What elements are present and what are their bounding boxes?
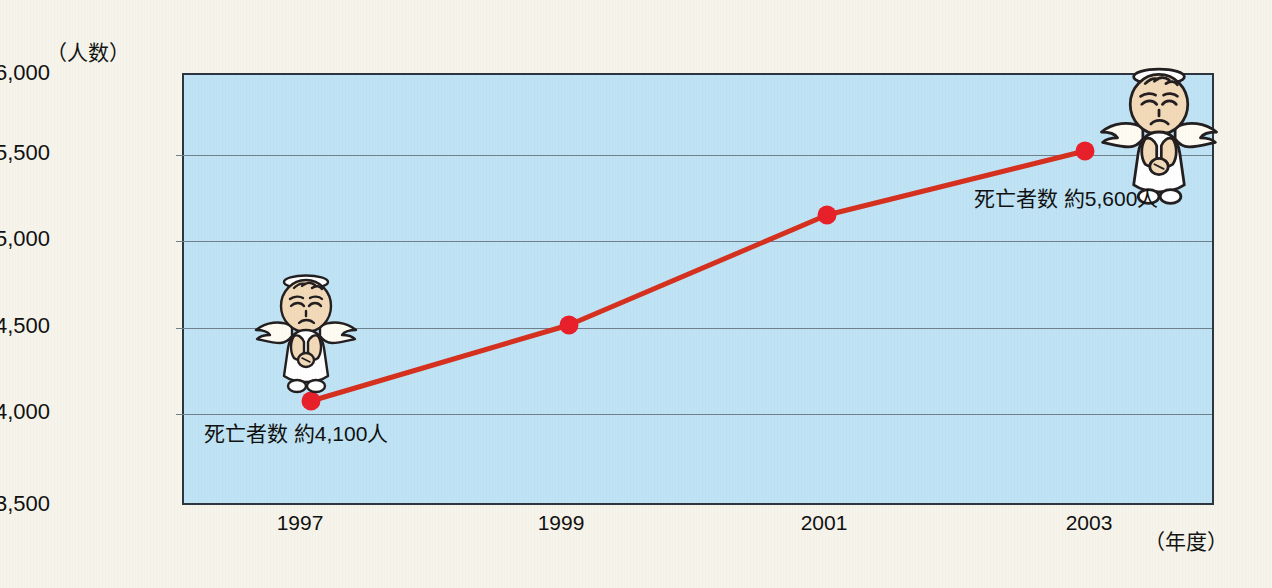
sad-angel-illustration-1997 — [240, 264, 372, 396]
y-axis-title: （人数） — [46, 36, 130, 66]
gridline-5500 — [176, 155, 1212, 156]
x-tick-label-1997: 1997 — [277, 511, 324, 535]
x-tick-label-2003: 2003 — [1066, 511, 1113, 535]
x-tick-label-2001: 2001 — [801, 511, 848, 535]
gridline-4000 — [176, 414, 1212, 415]
annotation-start-label: 死亡者数 約4,100人 — [204, 417, 388, 447]
y-tick-label-5000: 5,000 — [0, 226, 50, 252]
y-tick-label-6000: 6,000 — [0, 60, 50, 86]
y-tick-label-4000: 4,000 — [0, 399, 50, 425]
line-chart-figure: （人数） 6,000 5,500 5,000 4,500 4,000 3,500… — [0, 0, 1272, 588]
x-tick-label-1999: 1999 — [538, 511, 585, 535]
y-tick-label-3500: 3,500 — [0, 491, 50, 517]
annotation-end-label: 死亡者数 約5,600人 — [974, 182, 1158, 212]
gridline-5000 — [176, 241, 1212, 242]
y-tick-label-5500: 5,500 — [0, 140, 50, 166]
y-tick-label-4500: 4,500 — [0, 313, 50, 339]
x-axis-title: （年度） — [1144, 525, 1228, 555]
